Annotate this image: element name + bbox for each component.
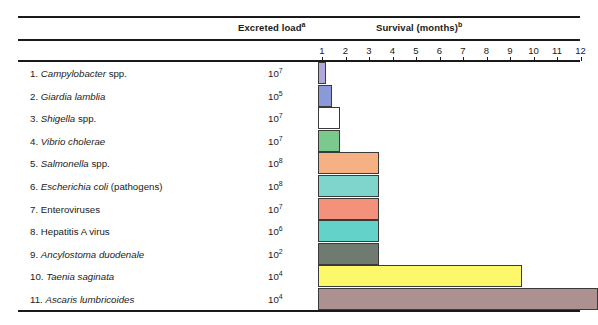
excreted-load-base: 10 xyxy=(268,159,279,170)
row-excreted-load-value: 108 xyxy=(268,180,283,192)
axis-tick-label-4: 4 xyxy=(390,45,395,56)
axis-tick-mark-6 xyxy=(440,57,441,61)
row-organism-name-italic: Shigella xyxy=(41,113,75,124)
row-index: 6. xyxy=(30,180,41,191)
table-top-rule xyxy=(18,16,580,18)
row-index: 4. xyxy=(30,135,41,146)
table-row[interactable]: 7. Enteroviruses107 xyxy=(0,197,598,220)
row-organism-label: 6. Escherichia coli (pathogens) xyxy=(30,180,163,191)
row-organism-label: 11. Ascaris lumbricoides xyxy=(30,293,134,304)
survival-bar xyxy=(318,243,379,265)
row-organism-label: 5. Salmonella spp. xyxy=(30,158,110,169)
pathogen-survival-table: Excreted loada Survival (months)b 123456… xyxy=(0,0,598,325)
survival-text: Survival (months) xyxy=(376,22,458,33)
table-row[interactable]: 9. Ancylostoma duodenale102 xyxy=(0,242,598,265)
table-row[interactable]: 11. Ascaris lumbricoides104 xyxy=(0,287,598,310)
excreted-load-base: 10 xyxy=(268,226,279,237)
excreted-load-exponent: 4 xyxy=(279,270,283,277)
axis-tick-label-5: 5 xyxy=(413,45,418,56)
row-excreted-load-value: 102 xyxy=(268,248,283,260)
excreted-load-base: 10 xyxy=(268,91,279,102)
row-organism-name-italic: Vibrio cholerae xyxy=(41,135,105,146)
excreted-load-exponent: 4 xyxy=(279,293,283,300)
excreted-load-exponent: 7 xyxy=(279,112,283,119)
table-row[interactable]: 8. Hepatitis A virus106 xyxy=(0,220,598,243)
row-excreted-load-value: 106 xyxy=(268,225,283,237)
survival-axis-tick-labels: 123456789101112 xyxy=(0,45,598,59)
table-row[interactable]: 2. Giardia lamblia105 xyxy=(0,85,598,108)
table-row[interactable]: 4. Vibrio cholerae107 xyxy=(0,130,598,153)
table-row[interactable]: 10. Taenia saginata104 xyxy=(0,265,598,288)
axis-tick-mark-12 xyxy=(581,57,582,61)
survival-bar xyxy=(318,198,379,220)
row-excreted-load-value: 107 xyxy=(268,202,283,214)
axis-tick-label-2: 2 xyxy=(343,45,348,56)
axis-tick-mark-4 xyxy=(393,57,394,61)
row-excreted-load-value: 105 xyxy=(268,90,283,102)
row-organism-name-plain: Hepatitis A virus xyxy=(41,226,110,237)
axis-tick-mark-5 xyxy=(416,57,417,61)
row-index: 9. xyxy=(30,248,41,259)
axis-tick-mark-1 xyxy=(322,57,323,61)
row-organism-name-plain: spp. xyxy=(89,158,110,169)
column-header-excreted-load: Excreted loada xyxy=(238,21,306,33)
row-index: 2. xyxy=(30,90,41,101)
excreted-load-exponent: 8 xyxy=(279,157,283,164)
excreted-load-exponent: 6 xyxy=(279,225,283,232)
excreted-load-base: 10 xyxy=(268,136,279,147)
row-organism-name-plain: spp. xyxy=(75,113,96,124)
row-organism-name-italic: Taenia saginata xyxy=(46,271,114,282)
survival-bar xyxy=(318,62,326,84)
excreted-load-base: 10 xyxy=(268,204,279,215)
axis-tick-label-10: 10 xyxy=(528,45,539,56)
row-organism-name-italic: Campylobacter xyxy=(41,68,106,79)
axis-tick-label-12: 12 xyxy=(575,45,586,56)
row-organism-label: 7. Enteroviruses xyxy=(30,203,100,214)
table-row[interactable]: 6. Escherichia coli (pathogens)108 xyxy=(0,175,598,198)
excreted-load-footnote-marker: a xyxy=(302,21,306,28)
survival-bar xyxy=(318,152,379,174)
row-index: 3. xyxy=(30,113,41,124)
excreted-load-exponent: 8 xyxy=(279,180,283,187)
row-organism-name-italic: Giardia lamblia xyxy=(41,90,106,101)
axis-tick-mark-11 xyxy=(557,57,558,61)
row-index: 5. xyxy=(30,158,41,169)
axis-tick-mark-9 xyxy=(510,57,511,61)
excreted-load-base: 10 xyxy=(268,271,279,282)
axis-tick-label-3: 3 xyxy=(366,45,371,56)
survival-bar xyxy=(318,288,598,310)
row-index: 10. xyxy=(30,271,46,282)
survival-bar xyxy=(318,175,379,197)
row-index: 7. xyxy=(30,203,41,214)
row-organism-label: 9. Ancylostoma duodenale xyxy=(30,248,144,259)
axis-tick-mark-3 xyxy=(369,57,370,61)
row-organism-name-italic: Salmonella xyxy=(41,158,89,169)
row-excreted-load-value: 107 xyxy=(268,67,283,79)
excreted-load-text: Excreted load xyxy=(238,22,302,33)
axis-tick-mark-10 xyxy=(534,57,535,61)
excreted-load-exponent: 7 xyxy=(279,67,283,74)
axis-tick-label-7: 7 xyxy=(460,45,465,56)
column-header-survival: Survival (months)b xyxy=(376,21,462,33)
row-organism-name-italic: Ancylostoma duodenale xyxy=(41,248,144,259)
table-row[interactable]: 5. Salmonella spp.108 xyxy=(0,152,598,175)
row-organism-name-plain: spp. xyxy=(106,68,127,79)
table-row[interactable]: 3. Shigella spp.107 xyxy=(0,107,598,130)
row-organism-label: 2. Giardia lamblia xyxy=(30,90,105,101)
table-header-rule xyxy=(18,39,580,41)
survival-bar xyxy=(318,265,522,287)
excreted-load-exponent: 7 xyxy=(279,202,283,209)
axis-tick-label-8: 8 xyxy=(484,45,489,56)
row-organism-name-italic: Ascaris lumbricoides xyxy=(45,293,134,304)
excreted-load-base: 10 xyxy=(268,113,279,124)
table-body: 1. Campylobacter spp.1072. Giardia lambl… xyxy=(0,62,598,310)
axis-tick-mark-8 xyxy=(487,57,488,61)
axis-tick-label-11: 11 xyxy=(552,45,562,56)
excreted-load-base: 10 xyxy=(268,68,279,79)
excreted-load-exponent: 7 xyxy=(279,135,283,142)
table-bottom-rule xyxy=(18,310,580,312)
row-organism-label: 8. Hepatitis A virus xyxy=(30,226,110,237)
table-row[interactable]: 1. Campylobacter spp.107 xyxy=(0,62,598,85)
row-organism-label: 1. Campylobacter spp. xyxy=(30,68,127,79)
excreted-load-base: 10 xyxy=(268,181,279,192)
